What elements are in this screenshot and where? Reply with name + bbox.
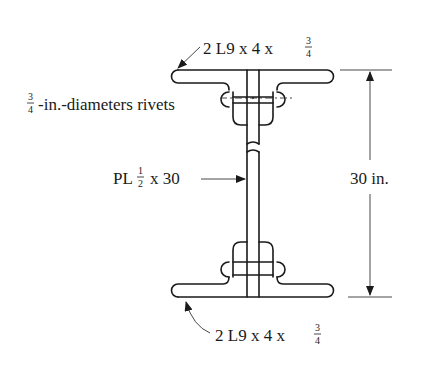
depth-dimension: 30 in. — [340, 70, 392, 297]
bottom-angles-frac-den: 4 — [315, 335, 320, 346]
web-plate-frac-den: 2 — [138, 178, 143, 189]
rivet-frac-num: 3 — [28, 91, 33, 102]
web-plate-suffix: x 30 — [150, 169, 180, 188]
top-angles-label: 2 L9 x 4 x — [203, 39, 273, 58]
girder-section-diagram: 30 in. 2 L9 x 4 x 3 4 3 4 -in.-diameters… — [0, 0, 421, 375]
top-angles-callout: 2 L9 x 4 x 3 4 — [178, 35, 312, 68]
bottom-flange-angles — [172, 242, 334, 297]
top-angles-frac-num: 3 — [306, 35, 311, 46]
web-plate-prefix: PL — [113, 169, 133, 188]
web-plate-frac-num: 1 — [138, 165, 143, 176]
rivet-label: -in.-diameters rivets — [38, 95, 175, 114]
depth-label: 30 in. — [350, 169, 389, 188]
bottom-angles-label: 2 L9 x 4 x — [215, 326, 285, 345]
rivet-callout: 3 4 -in.-diameters rivets — [27, 91, 175, 115]
web-plate — [247, 70, 259, 297]
bottom-angles-frac-num: 3 — [315, 322, 320, 333]
top-flange-angles — [172, 70, 334, 125]
bottom-angles-callout: 2 L9 x 4 x 3 4 — [186, 302, 321, 346]
web-plate-callout: PL 1 2 x 30 — [113, 165, 245, 189]
top-angles-frac-den: 4 — [306, 48, 311, 59]
rivet-frac-den: 4 — [28, 104, 33, 115]
